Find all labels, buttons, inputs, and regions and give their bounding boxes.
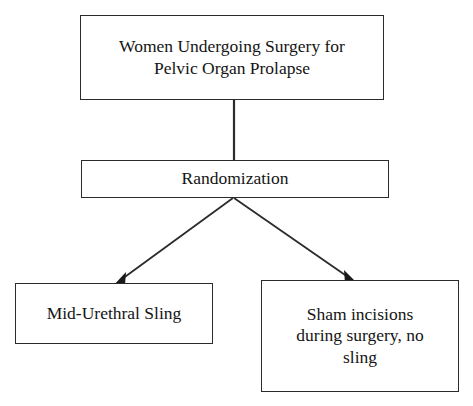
node-population-label: Women Undergoing Surgery for Pelvic Orga… (113, 36, 351, 79)
node-randomization: Randomization (81, 160, 389, 198)
flowchart-canvas: Women Undergoing Surgery for Pelvic Orga… (0, 0, 473, 406)
node-arm-mid-urethral-sling-label: Mid-Urethral Sling (41, 303, 188, 324)
node-arm-mid-urethral-sling: Mid-Urethral Sling (15, 283, 213, 344)
node-randomization-label: Randomization (176, 168, 295, 189)
node-arm-sham-incisions: Sham incisions during surgery, no sling (261, 280, 459, 392)
connector-randomization-to-sling (122, 198, 233, 279)
node-population: Women Undergoing Surgery for Pelvic Orga… (80, 15, 384, 100)
connector-randomization-to-sham (234, 198, 348, 277)
node-arm-sham-incisions-label: Sham incisions during surgery, no sling (290, 304, 429, 368)
